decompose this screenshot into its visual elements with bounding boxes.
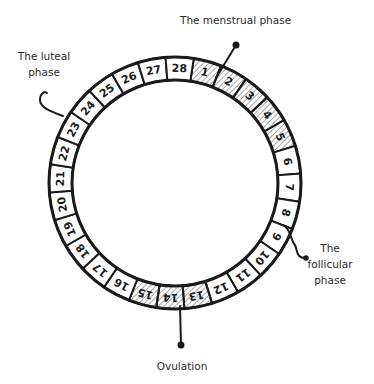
day-number: 28 <box>171 62 187 76</box>
menstrual-phase-label: The menstrual phase <box>180 12 291 28</box>
luteal-phase-label: The luteal phase <box>14 48 74 80</box>
menstrual-pointer-dot <box>234 43 239 48</box>
follicular-label-line-1: The <box>300 240 360 256</box>
day-number: 14 <box>162 291 178 305</box>
follicular-label-line-2: follicular <box>300 256 360 272</box>
luteal-pointer <box>40 92 63 116</box>
outer-ring-border <box>49 57 301 309</box>
menstrual-label-line: The menstrual phase <box>180 12 291 28</box>
follicular-label-line-3: phase <box>300 272 360 288</box>
ovulation-label-line: Ovulation <box>152 358 212 374</box>
day-ring: 1234567891011121314151617181920212223242… <box>49 57 301 309</box>
luteal-label-line-1: The luteal <box>14 48 74 64</box>
day-number: 13 <box>188 288 205 304</box>
inner-ring-border <box>72 80 278 286</box>
ovulation-pointer-dot <box>179 343 184 348</box>
day-number: 7 <box>283 183 296 191</box>
follicular-phase-label: The follicular phase <box>300 240 360 288</box>
ovulation-pointer <box>180 306 181 345</box>
day-number: 21 <box>54 171 68 187</box>
luteal-label-line-2: phase <box>14 64 74 80</box>
ovulation-label: Ovulation <box>152 358 212 374</box>
